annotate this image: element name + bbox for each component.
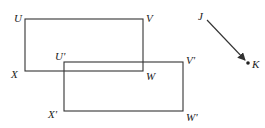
label-x-prime: X' [47, 108, 58, 120]
original-rectangle [25, 19, 143, 71]
label-x: X [10, 68, 19, 80]
translation-vector-arrow [207, 20, 245, 60]
translation-diagram: U V W X U' V' W' X' J K [0, 0, 265, 128]
label-v-prime: V' [186, 54, 196, 66]
label-j: J [198, 10, 204, 22]
label-v: V [146, 12, 154, 24]
point-k-dot [246, 61, 250, 65]
label-w: W [146, 70, 156, 82]
label-k: K [251, 58, 260, 70]
label-w-prime: W' [186, 111, 198, 123]
label-u: U [14, 12, 23, 24]
image-rectangle [64, 62, 183, 111]
label-u-prime: U' [55, 50, 66, 62]
